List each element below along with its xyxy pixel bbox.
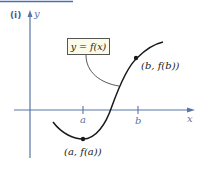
function-graph-figure: (i) y x a b y = f(x) (a, f(a)) (b, f(b)) <box>0 0 208 172</box>
y-axis-arrow-icon <box>28 10 33 17</box>
tick-label-a: a <box>80 115 86 125</box>
point-a-label: (a, f(a)) <box>64 147 102 157</box>
point-b-marker <box>134 56 138 60</box>
label-leader-line <box>86 55 119 86</box>
x-axis-label: x <box>187 114 193 124</box>
x-axis-arrow-icon <box>187 108 195 113</box>
point-a-marker <box>81 137 85 141</box>
function-curve <box>53 42 163 139</box>
part-label: (i) <box>10 11 21 20</box>
y-axis-label: y <box>34 9 40 19</box>
tick-label-b: b <box>135 116 141 126</box>
equation-label-box: y = f(x) <box>67 38 110 55</box>
graph-canvas <box>0 0 208 172</box>
equation-label: y = f(x) <box>71 41 107 52</box>
point-b-label: (b, f(b)) <box>141 61 179 71</box>
